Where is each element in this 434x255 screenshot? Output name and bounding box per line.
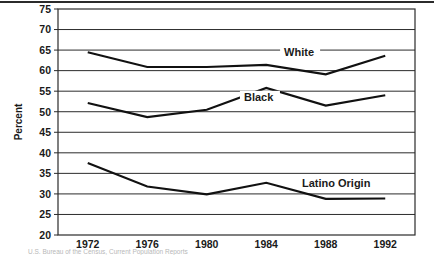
y-tick-label: 75 bbox=[39, 3, 51, 15]
series-label-black: Black bbox=[244, 91, 274, 103]
y-tick-label: 45 bbox=[39, 126, 51, 138]
x-tick-label: 1988 bbox=[314, 238, 338, 250]
y-axis-title: Percent bbox=[13, 103, 24, 140]
source-caption: U.S. Bureau of the Census, Current Popul… bbox=[28, 248, 188, 255]
y-tick-label: 70 bbox=[39, 23, 51, 35]
y-tick-label: 25 bbox=[39, 208, 51, 220]
y-tick-label: 60 bbox=[39, 64, 51, 76]
y-tick-label: 35 bbox=[39, 167, 51, 179]
series-label-latino-origin: Latino Origin bbox=[302, 177, 371, 189]
x-tick-label: 1992 bbox=[374, 238, 398, 250]
y-tick-label: 50 bbox=[39, 106, 51, 118]
plot-area-background bbox=[58, 9, 415, 235]
y-tick-label: 30 bbox=[39, 188, 51, 200]
series-label-white: White bbox=[284, 46, 314, 58]
y-tick-label: 40 bbox=[39, 147, 51, 159]
y-tick-label: 55 bbox=[39, 85, 51, 97]
x-tick-label: 1980 bbox=[195, 238, 219, 250]
x-tick-label: 1984 bbox=[255, 238, 279, 250]
y-tick-label: 20 bbox=[39, 229, 51, 241]
y-tick-label: 65 bbox=[39, 44, 51, 56]
y-tick-labels-group: 202530354045505560657075 bbox=[39, 3, 51, 241]
